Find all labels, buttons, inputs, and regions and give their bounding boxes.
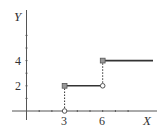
x-tick-label-3: 3 — [61, 114, 67, 128]
y-tick-label-2: 2 — [15, 79, 21, 93]
closed-point-6-4 — [100, 58, 105, 63]
y-tick-label-4: 4 — [15, 54, 21, 68]
y-axis-label: Y — [14, 9, 23, 24]
x-tick-label-6: 6 — [99, 114, 105, 128]
x-axis-label: X — [142, 113, 152, 128]
closed-point-3-2 — [62, 83, 67, 88]
open-point-3-0 — [62, 109, 67, 114]
step-function-chart: Y X 3 6 2 4 — [0, 0, 164, 130]
open-point-6-2 — [100, 84, 105, 89]
